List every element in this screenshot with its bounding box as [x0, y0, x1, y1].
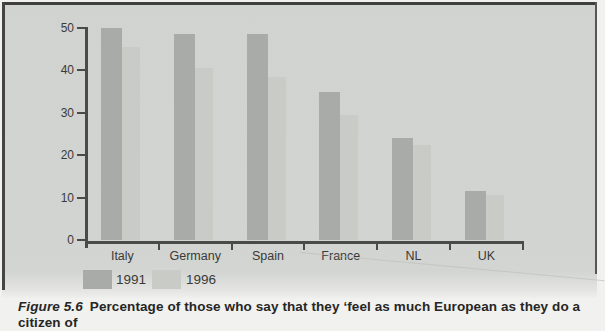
x-axis-tick: [376, 241, 378, 250]
bar-1991-germany: [174, 34, 195, 240]
legend-swatch-1996: [152, 270, 181, 289]
y-tick-label: 50: [48, 22, 74, 34]
bar-1991-italy: [101, 28, 122, 240]
y-tick-label: 10: [48, 192, 74, 204]
y-tick-label: 30: [48, 107, 74, 119]
figure-caption: Figure 5.6Percentage of those who say th…: [18, 299, 584, 331]
y-axis-tick: [77, 197, 85, 199]
y-axis-tick: [77, 239, 85, 241]
x-axis-tick: [449, 241, 451, 250]
y-axis-line: [85, 27, 88, 248]
bar-1996-uk: [486, 195, 504, 240]
y-tick-label: 40: [48, 64, 74, 76]
x-axis-tick: [158, 241, 160, 250]
y-axis-tick: [77, 27, 85, 29]
legend-swatch-1991: [83, 270, 112, 289]
x-category-label: Spain: [232, 250, 305, 263]
bar-1996-germany: [195, 68, 213, 240]
bar-1991-spain: [247, 34, 268, 240]
figure-number: Figure 5.6: [18, 299, 83, 314]
bar-1991-france: [319, 92, 340, 240]
bar-1991-nl: [392, 138, 413, 240]
bar-1996-france: [340, 115, 358, 240]
figure-caption-text: Percentage of those who say that they ‘f…: [18, 299, 580, 330]
legend-label-1991: 1991: [116, 273, 146, 287]
y-axis-tick: [77, 69, 85, 71]
x-category-label: UK: [450, 250, 523, 263]
y-tick-label: 20: [48, 149, 74, 161]
bar-1991-uk: [465, 191, 486, 240]
y-axis-tick: [77, 112, 85, 114]
y-axis-tick: [77, 154, 85, 156]
x-category-label: Italy: [86, 250, 159, 263]
legend-label-1996: 1996: [186, 273, 216, 287]
x-axis-tick: [303, 241, 305, 250]
bar-1996-italy: [122, 47, 140, 240]
x-axis-tick: [522, 241, 524, 250]
bar-1996-nl: [413, 145, 431, 240]
x-category-label: Germany: [159, 250, 232, 263]
x-axis-tick: [231, 241, 233, 250]
bar-1996-spain: [268, 77, 286, 240]
y-tick-label: 0: [48, 234, 74, 246]
grouped-bar-chart: 01020304050ItalyGermanySpainFranceNLUK: [0, 0, 600, 300]
